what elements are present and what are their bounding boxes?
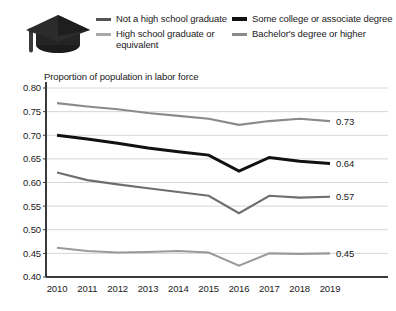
legend-swatch-icon	[232, 33, 247, 36]
x-axis-tick-label: 2014	[168, 283, 189, 294]
legend-item-high-school-graduate-or-equivalent[interactable]: High school graduate or equivalent	[96, 28, 228, 51]
legend-item-label: Some college or associate degree	[252, 13, 392, 25]
legend-column-left: Not a high school graduate High school g…	[96, 13, 228, 54]
y-axis-tick-label: 0.80	[23, 82, 41, 93]
legend-swatch-icon	[96, 18, 111, 21]
y-axis-tick-label: 0.65	[23, 153, 41, 164]
legend-item-bachelors-degree-or-higher[interactable]: Bachelor's degree or higher	[232, 28, 396, 40]
legend-item-label: High school graduate or equivalent	[116, 28, 228, 51]
x-axis-tick-label: 2010	[47, 283, 68, 294]
series-line-3	[57, 248, 330, 266]
y-axis-tick-label: 0.70	[23, 130, 41, 141]
chart-legend: Not a high school graduate High school g…	[0, 0, 396, 66]
x-axis-tick-label: 2012	[107, 283, 128, 294]
plot-canvas: 0.800.750.700.650.600.550.500.450.400.73…	[0, 66, 396, 311]
legend-swatch-icon	[232, 17, 247, 21]
x-axis-tick-label: 2018	[289, 283, 310, 294]
y-axis-tick-label: 0.75	[23, 106, 41, 117]
legend-item-label: Bachelor's degree or higher	[252, 28, 366, 40]
series-end-label-1: 0.64	[336, 158, 354, 169]
x-axis-tick-label: 2013	[138, 283, 159, 294]
y-axis-tick-label: 0.45	[23, 248, 41, 259]
x-axis-tick-label: 2015	[198, 283, 219, 294]
legend-item-not-a-high-school-graduate[interactable]: Not a high school graduate	[96, 13, 228, 25]
series-end-label-0: 0.73	[336, 116, 354, 127]
series-end-label-3: 0.45	[336, 248, 354, 259]
x-axis-tick-label: 2019	[320, 283, 341, 294]
series-line-1	[57, 135, 330, 171]
line-chart: Proportion of population in labor force …	[0, 66, 396, 311]
series-end-label-2: 0.57	[336, 191, 354, 202]
legend-swatch-icon	[96, 33, 111, 36]
x-axis-tick-label: 2016	[229, 283, 250, 294]
legend-column-right: Some college or associate degree Bachelo…	[232, 13, 396, 42]
x-axis-tick-label: 2011	[77, 283, 97, 294]
x-axis-tick-label: 2017	[259, 283, 280, 294]
graduation-cap-icon	[18, 9, 92, 59]
legend-item-label: Not a high school graduate	[116, 13, 227, 25]
y-axis-tick-label: 0.55	[23, 201, 41, 212]
series-line-0	[57, 103, 330, 125]
series-line-2	[57, 173, 330, 214]
legend-item-some-college-or-associate-degree[interactable]: Some college or associate degree	[232, 13, 396, 25]
y-axis-tick-label: 0.40	[23, 271, 41, 282]
y-axis-tick-label: 0.50	[23, 224, 41, 235]
y-axis-tick-label: 0.60	[23, 177, 41, 188]
